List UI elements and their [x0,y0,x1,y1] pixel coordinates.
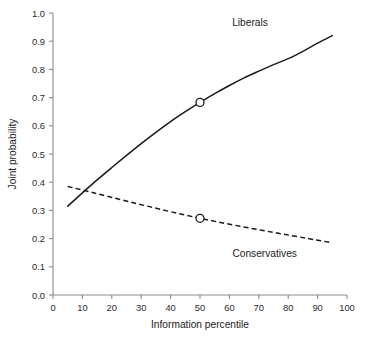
x-tick-label: 0 [50,302,55,313]
y-tick-label: 0.6 [32,120,45,131]
y-axis-tick-labels: 1.0 0.9 0.8 0.7 0.6 0.5 0.4 0.3 0.2 0.1 … [32,8,45,301]
x-tick-label: 80 [283,302,293,313]
figure-container: 1.0 0.9 0.8 0.7 0.6 0.5 0.4 0.3 0.2 0.1 … [0,0,369,339]
page-caption-strip [0,327,369,339]
x-tick-label: 70 [254,302,264,313]
y-tick-label: 0.9 [32,36,45,47]
x-axis-ticks [53,295,347,299]
x-tick-label: 20 [107,302,117,313]
series-label-conservatives: Conservatives [232,248,297,259]
y-tick-label: 0.3 [32,205,45,216]
y-tick-label: 0.8 [32,64,45,75]
data-point-marker-liberals [196,98,204,106]
x-tick-label: 40 [165,302,175,313]
y-tick-label: 0.1 [32,261,45,272]
data-point-marker-conservatives [196,214,204,222]
x-tick-label: 90 [312,302,322,313]
x-tick-label: 30 [136,302,146,313]
y-tick-label: 0.4 [32,177,45,188]
x-tick-label: 100 [339,302,355,313]
y-tick-label: 0.5 [32,149,45,160]
y-tick-label: 0.7 [32,92,45,103]
x-tick-label: 60 [224,302,234,313]
series-line-liberals [68,36,333,207]
x-tick-label: 10 [77,302,87,313]
y-tick-label: 0.0 [32,290,45,301]
x-tick-label: 50 [195,302,205,313]
y-tick-label: 1.0 [32,8,45,19]
y-axis-title: Joint probability [7,118,18,190]
y-axis-ticks [49,13,53,295]
series-label-liberals: Liberals [232,17,268,28]
joint-probability-line-chart: 1.0 0.9 0.8 0.7 0.6 0.5 0.4 0.3 0.2 0.1 … [0,0,369,339]
y-tick-label: 0.2 [32,233,45,244]
x-axis-tick-labels: 0 10 20 30 40 50 60 70 80 90 100 [50,302,354,313]
